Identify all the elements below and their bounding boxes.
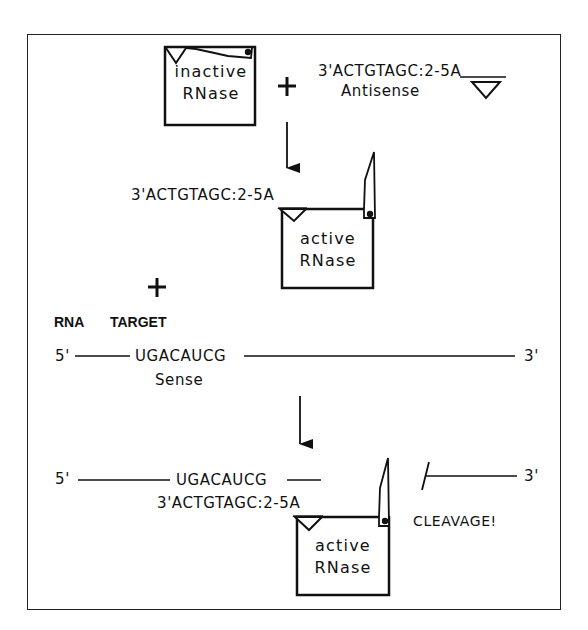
plus-icon (278, 77, 296, 96)
antisense-bases: 3'ACTGTAGC: (131, 186, 237, 204)
antisense-tail: 2-5A (424, 62, 461, 80)
target-label: TARGET (110, 315, 167, 329)
plus-icon (148, 278, 166, 297)
enzyme-state: active (297, 535, 389, 557)
antisense-tail: 2-5A (263, 494, 300, 512)
cleavage-label: CLEAVAGE! (413, 514, 497, 528)
three-prime-label: 3' (524, 469, 539, 484)
enzyme-state: inactive (165, 61, 257, 83)
antisense-sequence: 3'ACTGTAGC:2-5A (157, 496, 300, 511)
sense-sequence: UGACAUCG (176, 473, 267, 488)
five-prime-label: 5' (55, 472, 70, 487)
rna-label: RNA (54, 315, 84, 329)
enzyme-name: RNase (297, 557, 389, 579)
five-prime-label: 5' (55, 349, 70, 364)
enzyme-name: RNase (165, 83, 257, 105)
antisense-2-5a-marker-icon (460, 77, 506, 98)
diagram-graphics (0, 0, 588, 630)
antisense-tail: 2-5A (237, 186, 274, 204)
sense-label: Sense (155, 373, 203, 388)
enzyme-name: RNase (282, 250, 374, 272)
antisense-bases: 3'ACTGTAGC: (318, 62, 424, 80)
inactive-rnase-label: inactive RNase (165, 61, 257, 105)
antisense-sequence: 3'ACTGTAGC:2-5A (131, 188, 274, 203)
antisense-label: Antisense (341, 84, 420, 99)
enzyme-state: active (282, 228, 374, 250)
antisense-bases: 3'ACTGTAGC: (157, 494, 263, 512)
active-rnase-label: active RNase (297, 535, 389, 579)
sense-sequence: UGACAUCG (135, 349, 226, 364)
active-rnase-label: active RNase (282, 228, 374, 272)
cleaved-fragment-icon (422, 462, 517, 490)
antisense-sequence: 3'ACTGTAGC:2-5A (318, 64, 461, 79)
three-prime-label: 3' (524, 349, 539, 364)
